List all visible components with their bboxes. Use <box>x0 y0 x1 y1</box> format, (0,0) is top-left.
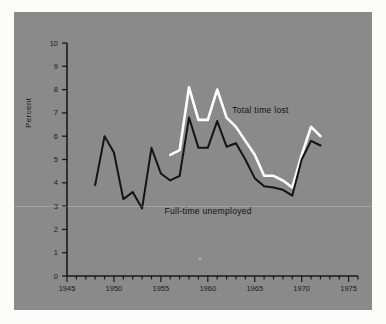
y-tick-label: 10 <box>44 39 58 48</box>
series-label-total-time-lost: Total time lost <box>232 105 288 115</box>
image-speck <box>199 258 201 260</box>
y-axis-title: Percent <box>24 68 33 128</box>
x-tick-label: 1975 <box>334 284 364 293</box>
y-tick-label: 3 <box>44 202 58 211</box>
x-tick-label: 1970 <box>287 284 317 293</box>
y-tick-label: 1 <box>44 248 58 257</box>
y-tick-label: 6 <box>44 132 58 141</box>
y-tick-label: 0 <box>44 272 58 281</box>
y-tick-label: 4 <box>44 178 58 187</box>
y-tick-label: 7 <box>44 108 58 117</box>
x-tick-label: 1950 <box>99 284 129 293</box>
y-tick-label: 9 <box>44 62 58 71</box>
chart-figure: Percent 01234567891019451950195519601965… <box>0 0 386 324</box>
x-tick-label: 1965 <box>240 284 270 293</box>
axes-group <box>62 43 358 282</box>
x-tick-label: 1955 <box>146 284 176 293</box>
x-tick-label: 1960 <box>193 284 223 293</box>
x-tick-label: 1945 <box>52 284 82 293</box>
series-line-full-time-unemployed <box>95 118 320 209</box>
y-tick-label: 8 <box>44 85 58 94</box>
y-tick-label: 5 <box>44 155 58 164</box>
y-tick-label: 2 <box>44 225 58 234</box>
series-label-full-time-unemployed: Full-time unemployed <box>165 206 252 216</box>
